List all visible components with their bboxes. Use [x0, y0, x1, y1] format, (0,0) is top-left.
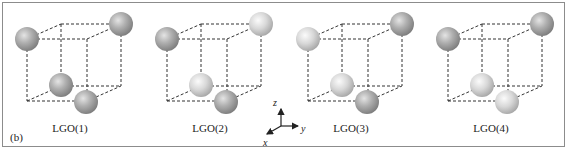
atom-sphere-bottom-back — [330, 73, 354, 97]
lgo-figure: LGO(1)LGO(2)LGO(3)LGO(4) z y x (b) — [0, 0, 569, 152]
atom-sphere-top-right — [530, 12, 554, 36]
panels-group: LGO(1)LGO(2)LGO(3)LGO(4) — [15, 12, 554, 135]
panel-label: LGO(4) — [473, 122, 509, 135]
panel-lgo-4: LGO(4) — [436, 12, 554, 135]
atom-sphere-top-left — [296, 27, 320, 51]
panel-lgo-2: LGO(2) — [155, 12, 273, 135]
atom-sphere-bottom-back — [189, 73, 213, 97]
atom-sphere-top-right — [390, 12, 414, 36]
y-axis-label: y — [300, 123, 306, 134]
panel-lgo-3: LGO(3) — [296, 12, 414, 135]
panel-tag: (b) — [10, 131, 23, 144]
x-axis-label: x — [262, 137, 268, 148]
panel-label: LGO(3) — [333, 122, 369, 135]
coordinate-axes: z y x — [262, 97, 306, 148]
atom-sphere-bottom-front — [495, 90, 519, 114]
atom-sphere-top-left — [15, 27, 39, 51]
panel-label: LGO(1) — [52, 122, 88, 135]
atom-sphere-bottom-front — [355, 90, 379, 114]
atom-sphere-top-right — [109, 12, 133, 36]
x-axis-arrow — [267, 126, 281, 134]
atom-sphere-bottom-back — [49, 73, 73, 97]
z-axis-label: z — [272, 97, 277, 108]
figure-canvas: LGO(1)LGO(2)LGO(3)LGO(4) z y x (b) — [0, 0, 569, 152]
panel-lgo-1: LGO(1) — [15, 12, 133, 135]
panel-label: LGO(2) — [192, 122, 228, 135]
atom-sphere-bottom-front — [74, 90, 98, 114]
atom-sphere-top-left — [436, 27, 460, 51]
atom-sphere-top-right — [249, 12, 273, 36]
atom-sphere-bottom-back — [470, 73, 494, 97]
atom-sphere-top-left — [155, 27, 179, 51]
atom-sphere-bottom-front — [214, 90, 238, 114]
